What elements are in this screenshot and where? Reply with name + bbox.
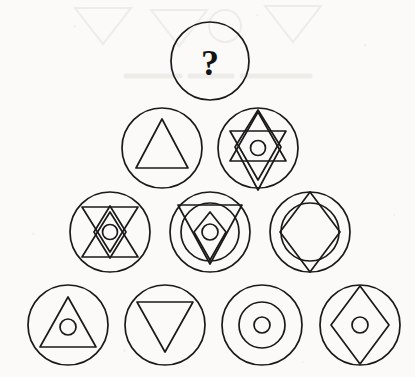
diamond-tall-glyph [194,212,226,260]
circle-small-glyph [352,317,368,333]
diamond-tall-glyph [94,206,126,258]
triangle-up-glyph [40,297,96,347]
cell-outer-circle [222,285,302,365]
puzzle-page: ? [0,0,415,377]
triangle-up-glyph [82,212,138,257]
circle-small-glyph [103,225,118,240]
triangle-up-glyph [136,119,188,168]
cell-r3-c1[interactable] [70,192,150,272]
cell-r2-c2[interactable] [218,108,298,190]
question-mark-glyph: ? [201,43,219,83]
cell-r4-c2[interactable] [125,285,205,365]
cell-r4-c1[interactable] [28,285,108,365]
cell-outer-circle [70,192,150,272]
circle-inner-glyph [239,302,285,348]
diamond-tall-glyph [280,192,340,272]
cell-outer-circle [270,192,350,272]
circle-small-glyph [251,141,266,156]
circle-small-glyph [254,317,270,333]
diamond-tall-glyph [235,110,281,190]
cell-r3-c2[interactable] [170,192,250,272]
diamond-tall-glyph [331,286,389,364]
puzzle-board: ? [0,0,415,377]
cell-r3-c3[interactable] [270,192,350,272]
triangle-down-glyph [137,302,193,352]
circle-small-glyph [60,319,76,335]
cell-outer-circle [218,108,298,188]
cell-outer-circle [125,285,205,365]
cell-r4-c3[interactable] [222,285,302,365]
cell-r4-c4[interactable] [320,285,400,365]
triangle-down-glyph [82,207,138,252]
circle-inner-glyph [281,203,339,261]
circle-small-glyph [202,224,218,240]
cell-r2-c1[interactable] [122,108,202,188]
cell-r1-c1[interactable]: ? [171,22,249,100]
